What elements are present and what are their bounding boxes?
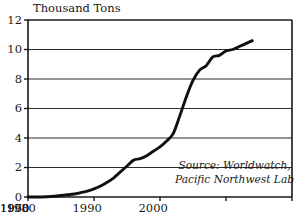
chart-plot-area: [0, 0, 307, 220]
x-axis-label-1980: 1980: [7, 201, 36, 215]
source-note-line-1: Source: Worldwatch,: [175, 159, 294, 173]
source-note-line-2: Pacific Northwest Lab: [175, 173, 294, 187]
y-axis-label-10: 10: [7, 42, 22, 56]
x-axis-label-2000: 2000: [139, 201, 168, 215]
y-axis-label-4: 4: [15, 131, 22, 145]
chart-title: Thousand Tons: [33, 1, 121, 15]
y-axis-label-12: 12: [7, 13, 22, 27]
grid-lines: [28, 50, 292, 168]
chart-figure: Thousand Tons 024681012 1960197019801990…: [0, 0, 307, 220]
source-note: Source: Worldwatch, Pacific Northwest La…: [175, 159, 294, 186]
y-axis-label-8: 8: [15, 72, 22, 86]
y-axis-label-6: 6: [15, 101, 22, 115]
y-axis-label-2: 2: [15, 160, 22, 174]
x-axis-label-1990: 1990: [73, 201, 102, 215]
